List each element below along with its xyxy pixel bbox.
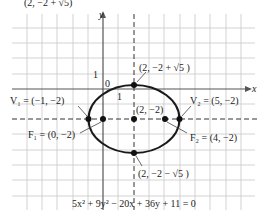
center-point <box>131 116 137 122</box>
top-partial-caption: (2, −2 + √5) <box>24 0 72 9</box>
x-axis-arrow-icon <box>245 86 252 92</box>
center-label: (2, −2) <box>136 104 163 116</box>
vertex2-point <box>177 116 183 122</box>
bottom-point <box>131 150 137 156</box>
focus2-point <box>162 116 168 122</box>
y-axis-label: y <box>98 9 104 20</box>
x-axis-label: x <box>251 83 257 94</box>
vertex1-label: V₁ = (−1, −2) <box>10 95 64 107</box>
vertex1-point <box>86 116 92 122</box>
focus1-label: F₁ = (0, −2) <box>28 129 75 141</box>
symmetry-lines <box>12 14 258 210</box>
focus1-point <box>100 116 106 122</box>
axes <box>12 14 248 210</box>
top-point-label: (2, −2 + √5 ) <box>139 62 190 74</box>
y-tick-label: 1 <box>93 69 98 80</box>
origin-label: 0 <box>105 78 110 89</box>
x-tick-label: 1 <box>117 91 122 102</box>
top-point <box>131 82 137 88</box>
vertex2-label: V₂ = (5, −2) <box>190 95 239 107</box>
focus2-label: F₂ = (4, −2) <box>190 132 237 144</box>
bottom-point-label: (2, −2 − √5 ) <box>138 168 189 180</box>
ellipse-diagram: (2, −2 + √5) y x 0 1 1 (2, −2 + √5 ) (2,… <box>0 0 265 220</box>
equation-label: 5x² + 9y² − 20x + 36y + 11 = 0 <box>72 198 196 209</box>
